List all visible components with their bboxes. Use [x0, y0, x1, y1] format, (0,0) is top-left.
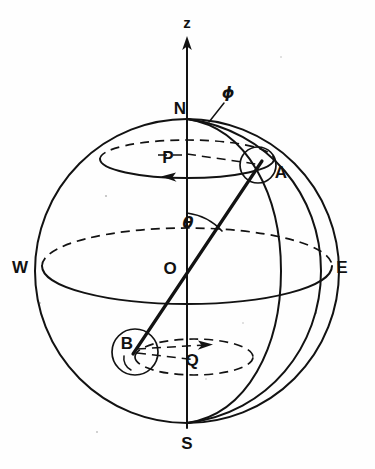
- figure-container: z N ϕ P A θ W O E B Q S: [0, 0, 375, 469]
- label-circle-p: P: [162, 148, 173, 167]
- point-b-rotation-curl: [124, 356, 131, 370]
- radius-p-to-a: [187, 154, 256, 164]
- label-circle-q: Q: [185, 351, 198, 370]
- label-west: W: [12, 258, 29, 277]
- label-point-b: B: [121, 334, 133, 353]
- label-origin: O: [163, 259, 176, 278]
- label-azimuth-angle: ϕ: [222, 83, 235, 102]
- label-point-a: A: [275, 163, 287, 182]
- label-polar-angle: θ: [183, 213, 194, 232]
- label-z-axis: z: [183, 14, 191, 31]
- meridian-through-a: [187, 119, 281, 423]
- line-b-o-a: [133, 161, 262, 354]
- spherical-coordinates-diagram: z N ϕ P A θ W O E B Q S: [0, 0, 375, 469]
- phi-leader-line: [209, 103, 224, 122]
- label-north-pole: N: [174, 99, 186, 118]
- label-south-pole: S: [181, 434, 192, 453]
- label-east: E: [336, 258, 347, 277]
